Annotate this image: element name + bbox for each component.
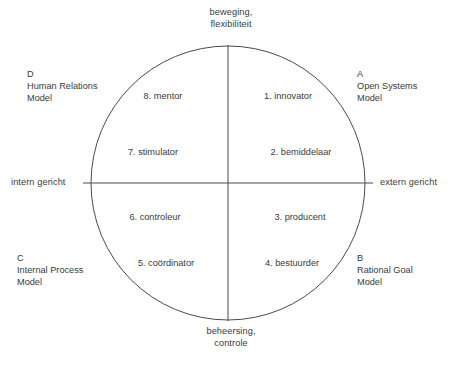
axis-label-bottom-line2: controle [214, 338, 248, 348]
model-name-c-line2: Model [17, 276, 83, 288]
model-letter-c: C [17, 252, 83, 264]
role-label-stimulator: 7. stimulator [101, 147, 205, 157]
model-label-a: A Open Systems Model [357, 68, 417, 105]
axis-label-top: beweging, flexibiliteit [188, 7, 274, 30]
axis-label-top-line1: beweging, [210, 7, 253, 17]
model-letter-b: B [357, 252, 413, 264]
axis-label-left: intern gericht [11, 177, 66, 189]
role-label-mentor: 8. mentor [118, 91, 208, 101]
model-name-c-line1: Internal Process [17, 264, 83, 276]
model-name-b-line2: Model [357, 276, 413, 288]
model-label-d: D Human Relations Model [27, 68, 97, 105]
axis-label-bottom: beheersing, controle [188, 326, 274, 349]
role-label-coordinator: 5. coördinator [113, 258, 219, 268]
axis-label-top-line2: flexibiliteit [210, 19, 251, 29]
model-label-b: B Rational Goal Model [357, 252, 413, 289]
model-name-a-line1: Open Systems [357, 80, 417, 92]
axis-label-right: extern gericht [380, 177, 437, 189]
role-label-innovator: 1. innovator [240, 91, 336, 101]
role-label-producent: 3. producent [248, 212, 352, 222]
model-label-c: C Internal Process Model [17, 252, 83, 289]
axis-label-bottom-line1: beheersing, [206, 326, 255, 336]
role-label-bestuurder: 4. bestuurder [240, 258, 344, 268]
model-name-d-line1: Human Relations [27, 80, 97, 92]
model-letter-a: A [357, 68, 417, 80]
role-label-bemiddelaar: 2. bemiddelaar [246, 147, 356, 157]
model-letter-d: D [27, 68, 97, 80]
role-label-controleur: 6. controleur [103, 212, 207, 222]
model-name-d-line2: Model [27, 92, 97, 104]
model-name-a-line2: Model [357, 92, 417, 104]
model-name-b-line1: Rational Goal [357, 264, 413, 276]
